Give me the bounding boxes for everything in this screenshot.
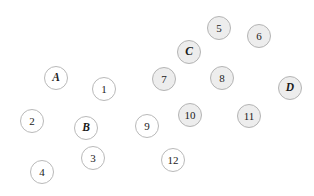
- node-2[interactable]: 2: [20, 109, 44, 133]
- node-B-label: B: [82, 122, 90, 134]
- node-1[interactable]: 1: [92, 77, 116, 101]
- node-11-label: 11: [244, 111, 255, 122]
- node-C[interactable]: C: [177, 40, 201, 64]
- node-C-label: C: [185, 46, 193, 58]
- node-D[interactable]: D: [278, 76, 302, 100]
- node-6[interactable]: 6: [247, 24, 271, 48]
- node-7[interactable]: 7: [152, 67, 176, 91]
- node-A[interactable]: A: [44, 66, 68, 90]
- node-8[interactable]: 8: [210, 66, 234, 90]
- node-B[interactable]: B: [74, 116, 98, 140]
- node-12[interactable]: 12: [161, 148, 185, 172]
- node-1-label: 1: [101, 84, 107, 95]
- node-4-label: 4: [39, 167, 45, 178]
- node-5[interactable]: 5: [207, 16, 231, 40]
- diagram-canvas: 56CA78D1101129B3124: [0, 0, 314, 196]
- node-10-label: 10: [185, 110, 196, 121]
- node-D-label: D: [286, 82, 294, 94]
- node-8-label: 8: [219, 73, 225, 84]
- node-9-label: 9: [144, 121, 150, 132]
- node-2-label: 2: [29, 116, 35, 127]
- node-6-label: 6: [256, 31, 262, 42]
- node-4[interactable]: 4: [30, 160, 54, 184]
- node-10[interactable]: 10: [178, 103, 202, 127]
- node-9[interactable]: 9: [135, 114, 159, 138]
- node-3[interactable]: 3: [81, 146, 105, 170]
- node-5-label: 5: [216, 23, 222, 34]
- node-7-label: 7: [161, 74, 167, 85]
- node-11[interactable]: 11: [237, 104, 261, 128]
- node-3-label: 3: [90, 153, 96, 164]
- node-12-label: 12: [168, 155, 179, 166]
- node-A-label: A: [52, 72, 60, 84]
